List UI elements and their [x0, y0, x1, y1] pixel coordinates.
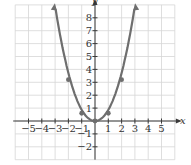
- svg-text:3: 3: [132, 123, 138, 134]
- svg-text:5: 5: [86, 51, 92, 62]
- parabola-chart: −5−4−3−2−112345−2−112345678 x y: [0, 0, 191, 165]
- y-axis-label: y: [91, 0, 98, 6]
- svg-text:4: 4: [86, 64, 92, 75]
- svg-text:7: 7: [86, 25, 92, 36]
- svg-text:2: 2: [118, 123, 124, 134]
- svg-text:5: 5: [158, 123, 164, 134]
- x-axis-label: x: [180, 115, 186, 126]
- svg-text:1: 1: [105, 123, 111, 134]
- svg-text:2: 2: [86, 90, 92, 101]
- svg-text:6: 6: [86, 38, 92, 49]
- axes: [13, 0, 182, 160]
- svg-text:−1: −1: [77, 128, 92, 139]
- svg-text:1: 1: [86, 103, 92, 114]
- svg-text:4: 4: [145, 123, 151, 134]
- svg-text:8: 8: [86, 12, 92, 23]
- svg-text:−2: −2: [77, 141, 92, 152]
- svg-text:3: 3: [86, 77, 92, 88]
